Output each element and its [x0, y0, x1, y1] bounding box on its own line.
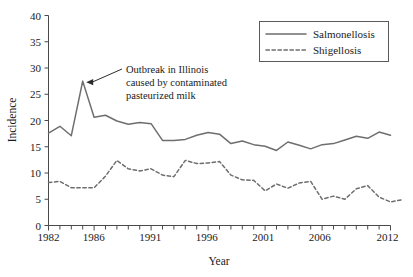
incidence-line-chart: 40 35 30 25 20 15 10 5 0 1982 1986 1991 … — [0, 0, 413, 277]
chart-figure: 40 35 30 25 20 15 10 5 0 1982 1986 1991 … — [0, 0, 413, 277]
x-axis-ticks — [49, 226, 391, 231]
x-tick-label-1982: 1982 — [38, 231, 60, 243]
x-tick-label-2006: 2006 — [309, 231, 332, 243]
annotation-line-2: caused by contaminated — [126, 77, 228, 88]
chart-legend: Salmonellosis Shigellosis — [260, 22, 389, 62]
y-tick-label-40: 40 — [30, 10, 42, 22]
x-tick-label-2001: 2001 — [252, 231, 274, 243]
series-line-shigellosis — [49, 160, 402, 201]
y-tick-label-35: 35 — [30, 36, 42, 48]
annotation-arrow-head — [86, 79, 93, 85]
x-axis-title: Year — [208, 255, 229, 267]
y-tick-label-15: 15 — [30, 141, 42, 153]
y-axis-ticks — [45, 16, 49, 226]
annotation-arrow-line — [92, 69, 122, 82]
series-line-salmonellosis — [49, 81, 391, 150]
legend-label-salmonellosis: Salmonellosis — [313, 28, 375, 40]
x-tick-label-1986: 1986 — [83, 231, 106, 243]
y-tick-label-30: 30 — [30, 62, 42, 74]
annotation-line-3: pasteurized milk — [126, 90, 196, 101]
x-tick-label-1996: 1996 — [196, 231, 219, 243]
y-axis-tick-labels: 40 35 30 25 20 15 10 5 0 — [30, 10, 42, 232]
y-tick-label-25: 25 — [30, 88, 42, 100]
y-tick-label-0: 0 — [36, 220, 42, 232]
x-axis-tick-labels: 1982 1986 1991 1996 2001 2006 2012 — [38, 231, 399, 243]
data-series-group — [49, 81, 402, 202]
annotation-line-1: Outbreak in Illinois — [126, 64, 208, 75]
outbreak-annotation: Outbreak in Illinois caused by contamina… — [86, 64, 227, 101]
x-tick-label-1991: 1991 — [139, 231, 161, 243]
y-tick-label-20: 20 — [30, 115, 42, 127]
y-tick-label-5: 5 — [36, 193, 42, 205]
x-tick-label-2012: 2012 — [377, 231, 399, 243]
y-axis-title: Incidence — [6, 98, 18, 143]
y-tick-label-10: 10 — [30, 167, 42, 179]
legend-label-shigellosis: Shigellosis — [313, 44, 361, 56]
